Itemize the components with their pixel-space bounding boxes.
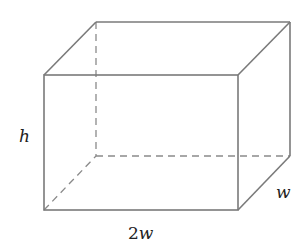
height-label: h xyxy=(19,126,30,146)
length-label: 2w xyxy=(128,223,154,243)
edge-top-right-depth xyxy=(238,22,290,75)
hidden-edge-bottom-left-depth xyxy=(44,156,96,210)
hidden-edges xyxy=(44,22,290,210)
visible-edges xyxy=(44,22,290,210)
length-label-variable: w xyxy=(139,223,154,243)
depth-label: w xyxy=(276,182,291,202)
front-face xyxy=(44,75,238,210)
edge-top-left-depth xyxy=(44,22,96,75)
length-label-coefficient: 2 xyxy=(128,223,139,243)
rectangular-box-diagram: h w 2w xyxy=(0,0,305,247)
